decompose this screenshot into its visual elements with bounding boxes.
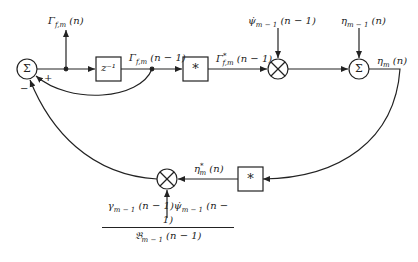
- sum-right-symbol: Σ: [352, 63, 366, 74]
- minus-sign: −: [20, 84, 28, 94]
- edge-eta-output-loop: [263, 69, 400, 179]
- sum-left-symbol: Σ: [20, 63, 34, 74]
- label-gamma-out: Γf,m (n): [48, 16, 84, 29]
- label-gamma-conj: Γ*f,m (n − 1): [216, 53, 272, 67]
- label-eta-out: ηm (n): [377, 56, 407, 69]
- label-eta-conj: η*m (n): [194, 163, 224, 177]
- label-eta-input: ηm − 1 (n): [341, 16, 386, 29]
- edge-feedback-plus: [36, 69, 152, 95]
- conj-lower-label: *: [238, 172, 263, 185]
- label-psi-input: ψ̇m − 1 (n − 1): [248, 16, 316, 29]
- label-gamma-delayed: Γf,m (n − 1): [129, 53, 186, 66]
- gain-numerator: γm − 1 (n − 1)ψ̇m − 1 (n − 1): [102, 200, 234, 228]
- delay-label: z⁻¹: [96, 63, 121, 73]
- plus-sign: +: [44, 73, 52, 83]
- conj-upper-label: *: [183, 62, 208, 75]
- gain-fraction: γm − 1 (n − 1)ψ̇m − 1 (n − 1) 𝔅m − 1 (n …: [102, 200, 234, 244]
- gain-denominator: 𝔅m − 1 (n − 1): [102, 228, 234, 244]
